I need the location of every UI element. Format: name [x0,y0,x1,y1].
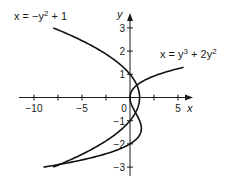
eq2-sup2: 2 [212,47,217,56]
y-tick-label: 1 [119,69,125,80]
x-tick-label: −10 [26,103,43,114]
y-tick-label: −1 [114,116,126,127]
equation-label-2: x = y3 + 2y2 [160,47,217,60]
x-axis-label: x [186,102,193,114]
eq1-main: x = −y [14,10,44,22]
x-axis-arrow-icon [185,95,193,101]
x-tick-label: −5 [76,103,88,114]
y-tick-label: 3 [119,23,125,34]
eq1-rest: + 1 [48,10,67,22]
equation-label-1: x = −y2 + 1 [14,9,67,22]
eq2-rest: + 2y [188,48,213,60]
y-tick-label: −3 [114,162,126,173]
x-tick-label: 0 [121,103,127,114]
parametric-curves-chart: −10−505 321−1−2−3 x y x = −y2 + 1 x = y3… [0,0,239,186]
y-axis-arrow-icon [127,13,133,21]
eq2-main: x = y [160,48,184,60]
x-tick-label: 5 [175,103,181,114]
y-axis-label: y [116,8,124,20]
y-tick-label: 2 [119,46,125,57]
